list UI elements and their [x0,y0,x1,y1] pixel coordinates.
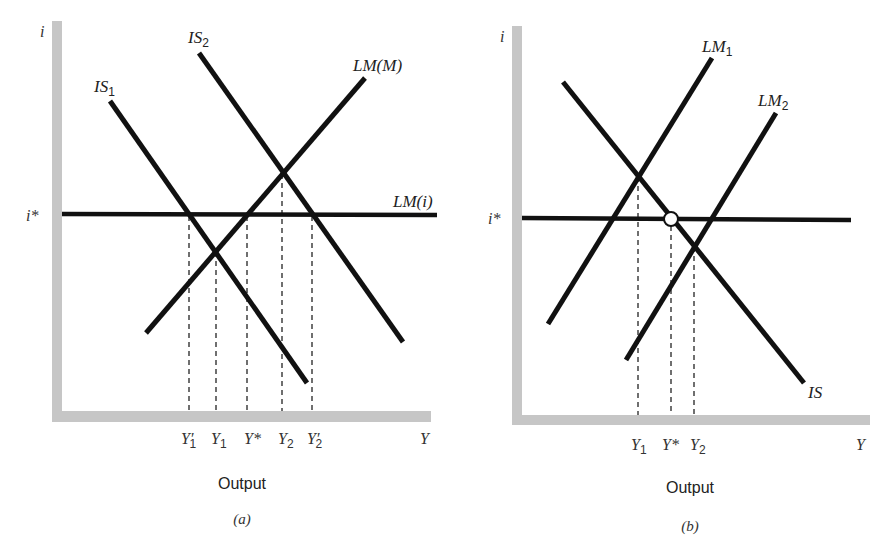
is-lm-figure: i i* Y IS1 IS2 LM(M) LM(i) Y′1 Y1 Y* Y2 … [0,0,887,550]
panel-caption: (a) [233,511,251,528]
lm-i-label: LM(i) [392,192,433,211]
x-axis [52,411,431,422]
panel-caption: (b) [681,518,699,535]
x-axis-title: Output [666,479,715,496]
x-axis [512,415,870,425]
x-axis-title: Output [218,475,267,492]
y-axis-label: i [40,23,44,40]
lm-m-label: LM(M) [352,56,402,75]
y-axis [52,21,62,422]
i-star-label: i* [488,210,500,227]
equilibrium-point [664,212,678,226]
background [0,0,887,550]
i-star-line [522,218,851,220]
is-label: IS [807,383,823,402]
x-marker-y-star: Y* [244,430,261,447]
i-star-label: i* [26,207,38,224]
y-axis [512,26,522,425]
y-axis-label: i [500,28,504,45]
x-marker-y-star: Y* [662,436,679,453]
